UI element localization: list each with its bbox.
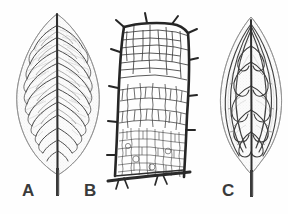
leaf-c-midrib — [251, 20, 252, 170]
leaf-venation-figure — [0, 0, 288, 214]
panel-label-a: A — [22, 182, 34, 199]
panel-label-b: B — [84, 182, 96, 199]
panel-label-c: C — [222, 182, 234, 199]
leaf-a-midrib — [57, 14, 58, 168]
figure-canvas: A B C — [0, 0, 288, 214]
